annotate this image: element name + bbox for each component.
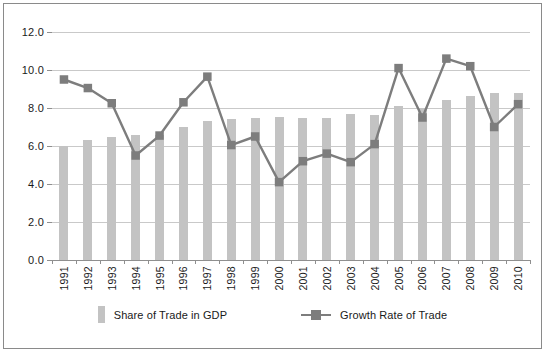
x-tick-mark — [339, 260, 340, 264]
y-axis-tick-label: 12.0 — [22, 26, 44, 38]
line-marker-1994[interactable]: Growth Rate of Trade 1994: 5.5 — [131, 151, 140, 160]
x-axis-label-1991: 1991 — [58, 266, 70, 291]
x-tick-mark — [458, 260, 459, 264]
y-axis-tick-label: 2.0 — [28, 216, 44, 228]
growth-rate-line-series: Growth Rate of Trade 1991: 9.5Growth Rat… — [52, 32, 530, 260]
legend-label-growth-rate-of-trade: Growth Rate of Trade — [340, 309, 447, 321]
x-axis-label-2008: 2008 — [464, 266, 476, 291]
x-axis-label-1993: 1993 — [106, 266, 118, 291]
x-axis-label-2005: 2005 — [393, 266, 405, 291]
line-marker-1995[interactable]: Growth Rate of Trade 1995: 6.55 — [155, 131, 164, 140]
x-tick-mark — [172, 260, 173, 264]
line-marker-2003[interactable]: Growth Rate of Trade 2003: 5.15 — [347, 158, 356, 167]
x-axis-label-1996: 1996 — [177, 266, 189, 291]
line-path — [64, 59, 518, 183]
x-axis-label-2009: 2009 — [488, 266, 500, 291]
line-marker-1993[interactable]: Growth Rate of Trade 1993: 8.25 — [108, 99, 117, 108]
x-tick-mark — [52, 260, 53, 264]
x-axis-label-1995: 1995 — [154, 266, 166, 291]
line-marker-2006[interactable]: Growth Rate of Trade 2006: 7.5 — [418, 113, 427, 122]
line-marker-1992[interactable]: Growth Rate of Trade 1992: 9.05 — [84, 84, 93, 93]
x-axis-label-1992: 1992 — [82, 266, 94, 291]
x-tick-mark — [506, 260, 507, 264]
line-marker-2007[interactable]: Growth Rate of Trade 2007: 10.6 — [442, 54, 451, 63]
x-axis-label-2004: 2004 — [369, 266, 381, 291]
line-marker-1991[interactable]: Growth Rate of Trade 1991: 9.5 — [60, 75, 68, 84]
line-marker-1996[interactable]: Growth Rate of Trade 1996: 8.3 — [179, 98, 188, 107]
x-tick-mark — [411, 260, 412, 264]
x-axis-label-1998: 1998 — [225, 266, 237, 291]
line-marker-1997[interactable]: Growth Rate of Trade 1997: 9.65 — [203, 72, 212, 81]
x-tick-mark — [482, 260, 483, 264]
x-axis-label-2001: 2001 — [297, 266, 309, 291]
x-tick-mark — [363, 260, 364, 264]
y-axis-tick-label: 4.0 — [28, 178, 44, 190]
chart-legend: Share of Trade in GDP Growth Rate of Tra… — [0, 306, 545, 323]
bar-swatch-icon — [98, 306, 105, 323]
legend-item-share-of-trade-in-gdp[interactable]: Share of Trade in GDP — [98, 306, 227, 323]
x-axis-label-2007: 2007 — [440, 266, 452, 291]
line-marker-2009[interactable]: Growth Rate of Trade 2009: 7 — [490, 123, 499, 132]
x-tick-mark — [530, 260, 531, 264]
x-tick-mark — [434, 260, 435, 264]
x-axis-label-2003: 2003 — [345, 266, 357, 291]
chart-figure: 0.02.04.06.08.010.012.0Growth Rate of Tr… — [0, 0, 545, 352]
legend-item-growth-rate-of-trade[interactable]: Growth Rate of Trade — [301, 308, 447, 321]
line-marker-2000[interactable]: Growth Rate of Trade 2000: 4.1 — [275, 178, 284, 187]
line-marker-1998[interactable]: Growth Rate of Trade 1998: 6.05 — [227, 141, 236, 150]
x-tick-mark — [148, 260, 149, 264]
x-tick-mark — [124, 260, 125, 264]
line-marker-swatch-icon — [301, 308, 331, 321]
x-axis-label-2006: 2006 — [416, 266, 428, 291]
x-axis-label-2002: 2002 — [321, 266, 333, 291]
x-tick-mark — [195, 260, 196, 264]
plot-area: 0.02.04.06.08.010.012.0Growth Rate of Tr… — [52, 32, 530, 260]
x-tick-mark — [315, 260, 316, 264]
line-marker-2010[interactable]: Growth Rate of Trade 2010: 8.2 — [514, 100, 523, 109]
x-tick-mark — [267, 260, 268, 264]
line-marker-2002[interactable]: Growth Rate of Trade 2002: 5.6 — [323, 149, 332, 158]
legend-label-share-of-trade-in-gdp: Share of Trade in GDP — [114, 309, 227, 321]
x-axis-label-2010: 2010 — [512, 266, 524, 291]
x-tick-mark — [387, 260, 388, 264]
x-tick-mark — [100, 260, 101, 264]
line-marker-2005[interactable]: Growth Rate of Trade 2005: 10.1 — [394, 64, 403, 73]
y-axis-tick-label: 8.0 — [28, 102, 44, 114]
line-marker-2008[interactable]: Growth Rate of Trade 2008: 10.2 — [466, 62, 475, 70]
x-tick-mark — [291, 260, 292, 264]
y-axis-tick-label: 6.0 — [28, 140, 44, 152]
x-tick-mark — [243, 260, 244, 264]
x-axis-label-1994: 1994 — [130, 266, 142, 291]
x-axis-label-1999: 1999 — [249, 266, 261, 291]
x-axis-label-2000: 2000 — [273, 266, 285, 291]
x-tick-mark — [219, 260, 220, 264]
line-marker-2004[interactable]: Growth Rate of Trade 2004: 6.1 — [370, 140, 379, 149]
y-axis-tick-label: 10.0 — [22, 64, 44, 76]
x-axis-label-1997: 1997 — [201, 266, 213, 291]
line-marker-2001[interactable]: Growth Rate of Trade 2001: 5.2 — [299, 157, 308, 166]
line-marker-1999[interactable]: Growth Rate of Trade 1999: 6.5 — [251, 132, 260, 141]
x-tick-mark — [76, 260, 77, 264]
y-axis-tick-label: 0.0 — [28, 254, 44, 266]
plot-wrapper: 0.02.04.06.08.010.012.0Growth Rate of Tr… — [0, 0, 545, 352]
